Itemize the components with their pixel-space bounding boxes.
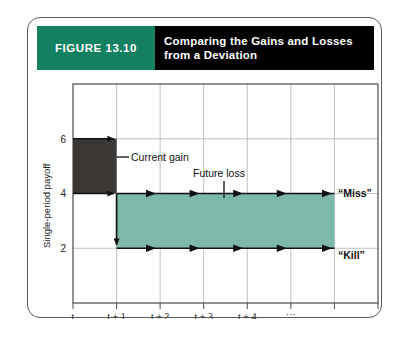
ytick-label-2: 2 [60,243,66,254]
miss-label: “Miss” [338,187,372,199]
future-loss-annotation: Future loss [193,167,245,179]
xtick-label-t3: t + 3 [194,311,212,319]
xtick-label-ellipsis: ··· [286,309,296,319]
ytick-label-6: 6 [60,134,66,145]
xtick-label-t2: t + 2 [151,311,169,319]
xtick-label-t1: t + 1 [107,311,125,319]
x-tick-marks [73,303,378,309]
xtick-label-t4: t + 4 [238,311,256,319]
y-axis-title: Single-period payoff [41,163,52,248]
future-loss-rect [117,194,335,249]
kill-label: “Kill” [338,249,365,261]
xtick-label-t: t [72,311,75,319]
ytick-label-4: 4 [60,188,66,199]
current-gain-annotation: Current gain [131,151,189,163]
current-gain-rect [73,139,117,194]
figure-card: FIGURE 13.10 Comparing the Gains and Los… [27,17,382,318]
chart-plot-area: Current gain Future loss “Miss” “Kill” 6… [28,18,383,319]
